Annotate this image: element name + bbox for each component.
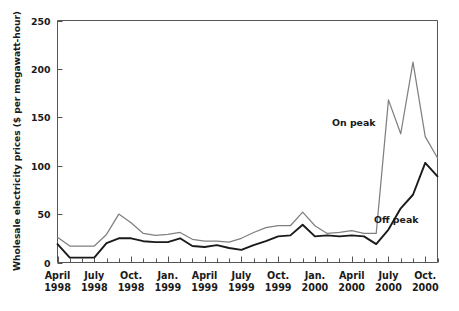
y-tick-label: 150 — [31, 112, 51, 123]
x-tick-label-year: 1999 — [228, 282, 255, 293]
y-tick-label: 50 — [37, 209, 51, 220]
y-tick-label: 0 — [44, 258, 51, 269]
x-tick-label-year: 1998 — [44, 282, 71, 293]
x-tick-label-month: July — [83, 270, 105, 281]
x-tick-label-month: Jan. — [304, 270, 326, 281]
x-tick-label-year: 2000 — [412, 282, 439, 293]
x-tick-label-year: 1999 — [191, 282, 218, 293]
series-annotation-on-peak: On peak — [332, 117, 376, 128]
x-tick-label-month: April — [45, 270, 71, 281]
y-axis-title: Wholesale electricity prices ($ per mega… — [11, 11, 22, 271]
x-tick-label-year: 1998 — [118, 282, 145, 293]
x-tick-label-year: 1999 — [154, 282, 181, 293]
x-tick-label-year: 2000 — [338, 282, 365, 293]
x-tick-label-month: Oct. — [120, 270, 142, 281]
x-tick-label-month: July — [377, 270, 399, 281]
series-annotation-off-peak: Off peak — [374, 214, 419, 225]
x-tick-label-month: Jan. — [157, 270, 179, 281]
x-tick-label-month: July — [230, 270, 252, 281]
wholesale-electricity-prices-line-chart: 050100150200250 April1998July1998Oct.199… — [0, 0, 459, 311]
y-tick-label: 100 — [31, 161, 51, 172]
x-tick-label-year: 1999 — [265, 282, 292, 293]
x-tick-label-year: 1998 — [81, 282, 108, 293]
x-tick-label-month: April — [192, 270, 218, 281]
x-axis-tick-labels: April1998July1998Oct.1998Jan.1999April19… — [44, 270, 439, 293]
chart-background — [0, 0, 459, 311]
x-tick-label-month: Oct. — [414, 270, 436, 281]
x-tick-label-year: 2000 — [375, 282, 402, 293]
y-tick-label: 250 — [31, 16, 51, 27]
x-tick-label-month: April — [339, 270, 365, 281]
x-tick-label-month: Oct. — [267, 270, 289, 281]
chart-figure: 050100150200250 April1998July1998Oct.199… — [0, 0, 459, 311]
y-tick-label: 200 — [31, 64, 51, 75]
x-tick-label-year: 2000 — [302, 282, 329, 293]
